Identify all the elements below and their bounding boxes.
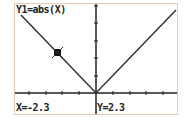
trace-x-value: X=-2.3 — [16, 103, 49, 113]
trace-y-value: Y=2.3 — [97, 103, 125, 113]
trace-cursor[interactable] — [52, 47, 63, 58]
equation-label: Y1=abs(X) — [16, 5, 66, 15]
abs-function-curve — [21, 10, 176, 93]
